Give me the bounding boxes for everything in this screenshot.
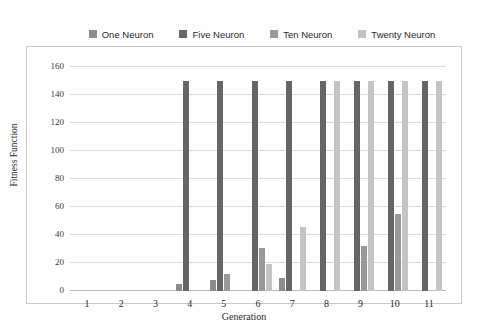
bar [259,248,265,291]
legend-item-twenty-neuron: Twenty Neuron [358,29,435,40]
bar [252,81,258,291]
bar [279,278,285,291]
legend-item-five-neuron: Five Neuron [179,29,244,40]
bar [361,246,367,291]
y-tick-label: 100 [51,145,65,155]
bar [402,81,408,291]
legend-label-ten-neuron: Ten Neuron [283,29,332,40]
x-tick-label: 11 [424,298,434,309]
bar-group: 2 [104,67,138,291]
bar [210,280,216,291]
bar-group: 3 [138,67,172,291]
bar [224,274,230,291]
bar [286,81,292,291]
bar-group: 7 [275,67,309,291]
y-tick-label: 80 [55,173,64,183]
bar-groups: 1234567891011 [70,67,446,291]
y-tick-label: 140 [51,89,65,99]
x-tick-label: 1 [85,298,90,309]
legend-swatch-twenty-neuron [358,30,366,38]
bar [422,81,428,291]
x-tick-label: 2 [119,298,124,309]
y-axis-title: Fitness Function [9,123,19,186]
x-axis-title: Generation [0,311,488,322]
chart-legend: One Neuron Five Neuron Ten Neuron Twenty… [62,24,462,44]
legend-label-one-neuron: One Neuron [102,29,154,40]
x-tick-label: 7 [290,298,295,309]
x-tick-label: 10 [390,298,400,309]
x-tick-label: 5 [221,298,226,309]
legend-label-twenty-neuron: Twenty Neuron [371,29,435,40]
plot-area: 020406080100120140160 1234567891011 [70,67,446,291]
x-tick-label: 8 [324,298,329,309]
bar [266,264,272,291]
x-tick-label: 9 [358,298,363,309]
legend-swatch-five-neuron [179,30,187,38]
legend-item-one-neuron: One Neuron [89,29,154,40]
chart-figure: One Neuron Five Neuron Ten Neuron Twenty… [0,0,488,335]
bar-group: 10 [378,67,412,291]
legend-swatch-ten-neuron [270,30,278,38]
y-tick-label: 60 [55,201,64,211]
bar-group: 5 [207,67,241,291]
x-tick-label: 4 [187,298,192,309]
bar [368,81,374,291]
y-tick-label: 0 [60,285,65,295]
legend-item-ten-neuron: Ten Neuron [270,29,332,40]
bar [320,81,326,291]
y-tick-label: 20 [55,257,64,267]
bar [354,81,360,291]
bar-group: 4 [173,67,207,291]
bar [300,227,306,291]
x-tick-label: 6 [256,298,261,309]
bar-group: 6 [241,67,275,291]
bar [217,81,223,291]
y-tick-label: 40 [55,229,64,239]
bar [176,284,182,291]
legend-label-five-neuron: Five Neuron [192,29,244,40]
bar [388,81,394,291]
bar-group: 1 [70,67,104,291]
bar [395,214,401,291]
bar [436,81,442,291]
bar [334,81,340,291]
bar-group: 8 [309,67,343,291]
bar [183,81,189,291]
x-tick-label: 3 [153,298,158,309]
y-tick-label: 120 [51,117,65,127]
legend-swatch-one-neuron [89,30,97,38]
bar-group: 11 [412,67,446,291]
y-tick-label: 160 [51,61,65,71]
bar-group: 9 [344,67,378,291]
